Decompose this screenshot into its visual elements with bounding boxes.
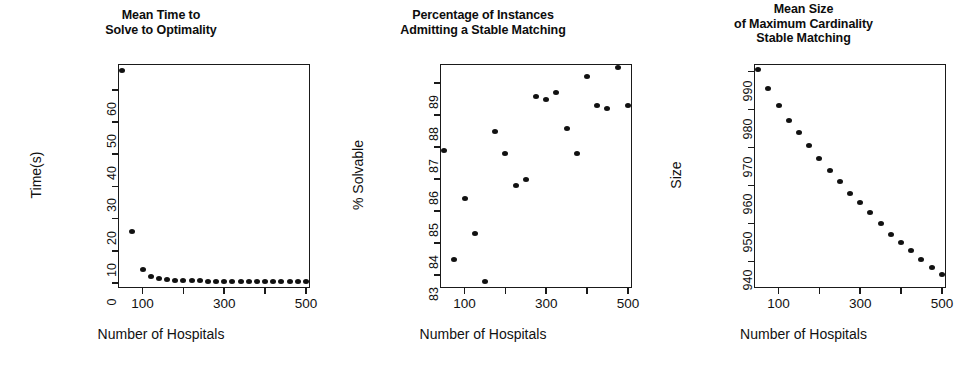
y-axis-title: % Solvable xyxy=(350,135,366,215)
x-axis-tick-label: 500 xyxy=(295,296,318,311)
data-point xyxy=(472,231,478,236)
x-axis-tick xyxy=(142,288,144,294)
y-axis-tick-label: 970 xyxy=(741,147,755,187)
x-axis-tick xyxy=(941,288,943,294)
data-point xyxy=(205,279,211,284)
data-point xyxy=(119,68,125,73)
x-axis-title: Number of Hospitals xyxy=(644,326,963,342)
x-axis-tick xyxy=(586,288,588,294)
data-point xyxy=(482,279,488,284)
panel-title: Mean Size of Maximum Cardinality Stable … xyxy=(644,2,963,46)
x-axis-tick xyxy=(627,288,629,294)
y-axis-tick-label: 950 xyxy=(741,222,755,262)
panel-mean-time-to-solve: Mean Time to Solve to Optimality Time(s)… xyxy=(0,0,322,367)
data-point xyxy=(451,257,457,262)
x-axis-tick xyxy=(819,288,821,294)
x-axis-tick xyxy=(183,288,185,294)
data-point xyxy=(441,148,447,153)
data-point xyxy=(148,274,154,279)
data-point xyxy=(776,103,782,108)
x-axis-tick-label: 100 xyxy=(453,296,476,311)
data-point xyxy=(221,279,227,284)
data-point xyxy=(615,65,621,70)
figure-three-panel-scatter: Mean Time to Solve to Optimality Time(s)… xyxy=(0,0,963,367)
y-axis-tick-label: 990 xyxy=(741,71,755,111)
data-point xyxy=(156,276,162,281)
x-axis-tick-label: 500 xyxy=(931,296,954,311)
x-axis-tick xyxy=(859,288,861,294)
x-axis-tick xyxy=(264,288,266,294)
x-axis-tick xyxy=(900,288,902,294)
x-axis-tick-label: 300 xyxy=(535,296,558,311)
data-point xyxy=(172,278,178,283)
x-axis-tick-label: 100 xyxy=(131,296,154,311)
data-point xyxy=(867,210,873,215)
panel-title: Percentage of Instances Admitting a Stab… xyxy=(322,8,644,37)
data-point xyxy=(238,279,244,284)
x-axis-tick xyxy=(464,288,466,294)
panel-mean-size-max-cardinality: Mean Size of Maximum Cardinality Stable … xyxy=(644,0,963,367)
x-axis-tick xyxy=(223,288,225,294)
data-point xyxy=(898,240,904,245)
data-point xyxy=(827,168,833,173)
x-axis-tick-label: 300 xyxy=(849,296,872,311)
data-point xyxy=(625,103,631,108)
plot-area xyxy=(754,64,946,288)
data-point xyxy=(847,191,853,196)
data-point xyxy=(929,265,935,270)
data-point xyxy=(523,177,529,182)
data-point xyxy=(543,97,549,102)
data-point xyxy=(564,126,570,131)
y-axis-tick-label: 960 xyxy=(741,184,755,224)
x-axis-tick xyxy=(545,288,547,294)
x-axis-title: Number of Hospitals xyxy=(322,326,644,342)
x-axis-tick xyxy=(505,288,507,294)
data-point xyxy=(213,279,219,284)
data-point xyxy=(140,267,146,272)
x-axis-tick-label: 300 xyxy=(213,296,236,311)
plot-area xyxy=(118,64,310,288)
data-point xyxy=(908,248,914,253)
data-point xyxy=(574,151,580,156)
panel-percentage-solvable: Percentage of Instances Admitting a Stab… xyxy=(322,0,644,367)
data-point xyxy=(796,130,802,135)
data-point xyxy=(462,196,468,201)
y-axis-tick-label: 940 xyxy=(741,260,755,300)
x-axis-tick-label: 100 xyxy=(767,296,790,311)
data-point xyxy=(254,279,260,284)
x-axis-tick-label: 500 xyxy=(617,296,640,311)
y-axis-tick-label: 89 xyxy=(427,82,441,122)
data-point xyxy=(837,179,843,184)
y-axis-tick-label: 60 xyxy=(105,89,119,129)
data-point xyxy=(878,221,884,226)
x-axis-tick xyxy=(305,288,307,294)
data-point xyxy=(533,94,539,99)
panel-title: Mean Time to Solve to Optimality xyxy=(0,8,322,37)
data-point xyxy=(246,279,252,284)
x-axis-tick xyxy=(778,288,780,294)
y-axis-title: Time(s) xyxy=(28,135,44,215)
x-axis-title: Number of Hospitals xyxy=(0,326,322,342)
data-point xyxy=(492,129,498,134)
data-point xyxy=(513,183,519,188)
y-axis-title: Size xyxy=(668,135,684,215)
y-axis-tick-label: 980 xyxy=(741,109,755,149)
